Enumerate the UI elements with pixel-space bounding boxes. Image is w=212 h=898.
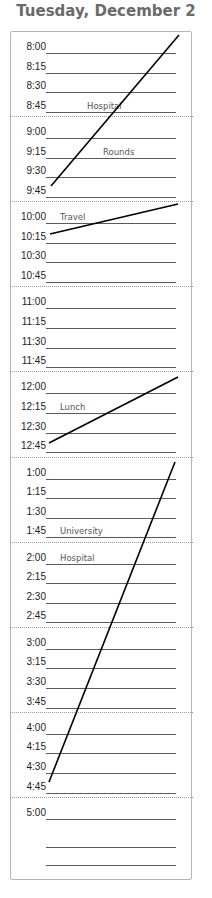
stroke-travel	[50, 204, 178, 234]
stroke-hospital-rounds	[51, 35, 179, 186]
stroke-afternoon	[49, 462, 175, 782]
block-strokes	[0, 0, 212, 898]
stroke-lunch	[49, 377, 178, 443]
